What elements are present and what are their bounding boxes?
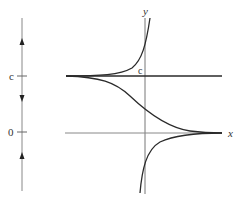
label-0: 0: [8, 126, 14, 138]
label-c: c: [9, 70, 14, 82]
y-axis-label: y: [142, 5, 148, 17]
phase-line: c 0: [8, 18, 27, 191]
solution-curve-between: [66, 76, 222, 133]
phase-diagram-figure: c 0 y x c: [0, 0, 248, 197]
equilibrium-c-label: c: [138, 65, 143, 76]
x-axis-label: x: [227, 127, 233, 139]
graph: y x c: [65, 5, 233, 194]
arrow-up-icon: [20, 38, 25, 45]
solution-curve-below-0: [140, 133, 222, 193]
arrow-up-icon: [20, 152, 25, 159]
arrow-down-icon: [20, 95, 25, 102]
